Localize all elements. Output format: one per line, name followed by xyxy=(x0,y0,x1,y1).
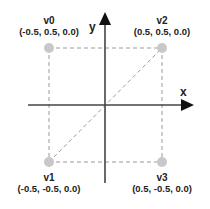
vertex-label-v1: v1 (-0.5, -0.5, 0.0) xyxy=(4,172,94,194)
vertex-name: v1 xyxy=(4,172,94,183)
x-axis-label: x xyxy=(180,85,187,99)
vertex-coords: (-0.5, 0.5, 0.0) xyxy=(4,26,94,37)
x-axis-arrow-icon xyxy=(181,99,194,111)
y-axis-arrow-icon xyxy=(99,12,111,25)
vertex-coords: (0.5, -0.5, 0.0) xyxy=(117,183,207,194)
vertex-name: v3 xyxy=(117,172,207,183)
vertex-label-v0: v0 (-0.5, 0.5, 0.0) xyxy=(4,15,94,37)
vertex-coords: (0.5, 0.5, 0.0) xyxy=(117,26,207,37)
vertex-name: v0 xyxy=(4,15,94,26)
vertex-name: v2 xyxy=(117,15,207,26)
vertex-label-v2: v2 (0.5, 0.5, 0.0) xyxy=(117,15,207,37)
vertex-v1-dot xyxy=(44,157,54,167)
vertex-v3-dot xyxy=(157,157,167,167)
vertex-v2-dot xyxy=(157,43,167,53)
vertex-v0-dot xyxy=(44,43,54,53)
vertex-label-v3: v3 (0.5, -0.5, 0.0) xyxy=(117,172,207,194)
vertex-coords: (-0.5, -0.5, 0.0) xyxy=(4,183,94,194)
